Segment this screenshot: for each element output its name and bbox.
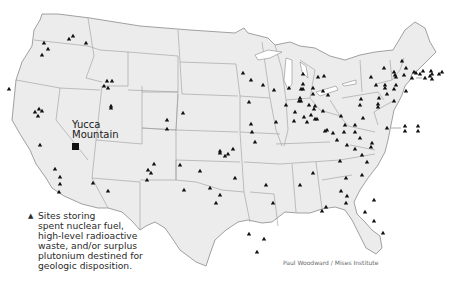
credit-text: Paul Woodward / Mises Institute: [283, 259, 378, 266]
site-triangle-icon: [421, 69, 425, 73]
site-triangle-icon: [381, 231, 385, 235]
yucca-label-line2: Mountain: [72, 130, 119, 140]
site-triangle-icon: [437, 72, 441, 76]
legend-line: geologic disposition.: [28, 261, 143, 271]
site-triangle-icon: [255, 250, 259, 254]
yucca-mountain-label: Yucca Mountain: [72, 120, 119, 140]
site-triangle-icon: [363, 210, 367, 214]
site-triangle-icon: [403, 124, 407, 128]
triangle-marker-icon: ▲: [28, 211, 38, 221]
site-triangle-icon: [440, 70, 444, 74]
site-triangle-icon: [372, 198, 376, 202]
site-triangle-icon: [429, 69, 433, 73]
site-triangle-icon: [416, 124, 420, 128]
site-triangle-icon: [403, 129, 407, 133]
site-triangle-icon: [423, 76, 427, 80]
site-triangle-icon: [404, 89, 408, 93]
site-triangle-icon: [247, 232, 251, 236]
site-triangle-icon: [416, 129, 420, 133]
site-triangle-icon: [262, 237, 266, 241]
yucca-mountain-marker: [72, 143, 79, 150]
site-triangle-icon: [7, 87, 11, 91]
site-triangle-icon: [372, 219, 376, 223]
legend: ▲Sites storing spent nuclear fuel, high-…: [28, 211, 143, 271]
